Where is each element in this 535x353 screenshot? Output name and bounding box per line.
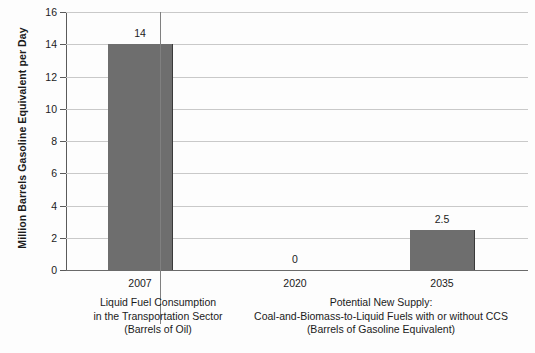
y-tick-mark [60, 238, 66, 239]
y-tick-mark [60, 77, 66, 78]
bar [108, 44, 173, 270]
caption-line: Coal-and-Biomass-to-Liquid Fuels with or… [233, 310, 529, 324]
x-axis-category-label: 2007 [128, 277, 151, 289]
x-axis-category-label: 2020 [283, 277, 306, 289]
bar [410, 230, 475, 270]
y-tick-label: 6 [51, 167, 57, 179]
y-tick-label: 10 [45, 103, 57, 115]
y-tick-mark [60, 141, 66, 142]
y-tick-label: 2 [51, 232, 57, 244]
bar-value-label: 14 [134, 27, 146, 39]
y-tick-label: 8 [51, 135, 57, 147]
y-tick-mark [60, 206, 66, 207]
y-tick-label: 0 [51, 264, 57, 276]
y-tick-mark [60, 173, 66, 174]
y-tick-mark [60, 12, 66, 13]
y-tick-label: 12 [45, 71, 57, 83]
y-tick-label: 4 [51, 200, 57, 212]
y-tick-mark [60, 109, 66, 110]
gridline [66, 12, 528, 13]
caption-line: (Barrels of Gasoline Equivalent) [233, 323, 529, 337]
y-tick-label: 16 [45, 6, 57, 18]
bar-chart-figure: Million Barrels Gasoline Equivalent per … [0, 0, 535, 353]
y-tick-mark [60, 44, 66, 45]
bar-value-label: 2.5 [435, 213, 450, 225]
plot-area: 0246810121416 1402.5 [66, 12, 528, 270]
x-axis-category-label: 2035 [430, 277, 453, 289]
y-tick-label: 14 [45, 38, 57, 50]
group-divider-line [160, 12, 161, 324]
y-tick-mark [60, 270, 66, 271]
group-caption-right: Potential New Supply:Coal-and-Biomass-to… [233, 296, 529, 337]
y-axis-title: Million Barrels Gasoline Equivalent per … [16, 3, 28, 273]
x-axis-line [66, 270, 528, 271]
bar-value-label: 0 [292, 253, 298, 265]
caption-line: Potential New Supply: [233, 296, 529, 310]
